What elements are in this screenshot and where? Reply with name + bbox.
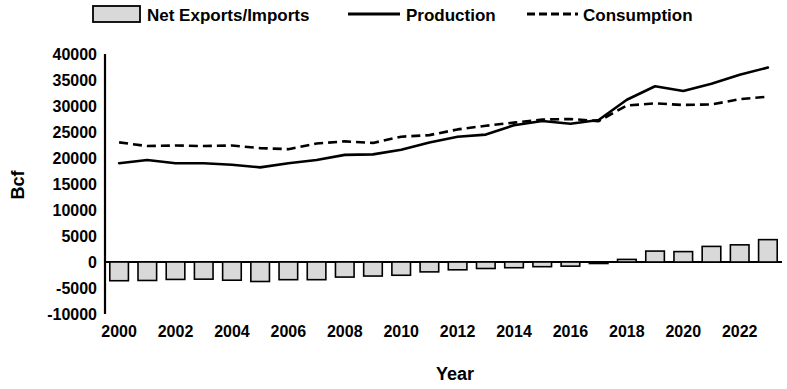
legend-label-net-exports-imports: Net Exports/Imports (147, 6, 309, 25)
bar (448, 262, 467, 270)
x-tick-label: 2020 (665, 323, 701, 340)
bar (307, 262, 326, 280)
x-tick-label: 2022 (722, 323, 758, 340)
x-tick-label: 2012 (440, 323, 476, 340)
x-axis-tick-labels: 2000200220042006200820102012201420162018… (101, 323, 757, 340)
y-tick-label: 25000 (53, 124, 98, 141)
bar (533, 262, 552, 267)
x-axis-title: Year (436, 364, 474, 384)
bar (166, 262, 185, 279)
energy-chart-figure: Net Exports/Imports Production Consumpti… (0, 0, 787, 389)
bar (646, 251, 665, 262)
legend-swatch-net-exports-imports (93, 6, 140, 22)
bar (194, 262, 213, 279)
y-tick-label: 10000 (53, 202, 98, 219)
bar (561, 262, 580, 266)
y-tick-label: 5000 (61, 228, 97, 245)
y-tick-label: 0 (88, 254, 97, 271)
bar (420, 262, 439, 272)
chart-legend: Net Exports/Imports Production Consumpti… (93, 6, 693, 25)
x-tick-label: 2004 (214, 323, 250, 340)
x-tick-label: 2008 (327, 323, 363, 340)
bar (110, 262, 129, 281)
x-tick-label: 2018 (609, 323, 645, 340)
x-tick-label: 2000 (101, 323, 137, 340)
bar (477, 262, 496, 269)
y-tick-label: 35000 (53, 72, 98, 89)
bar (392, 262, 411, 275)
bar (364, 262, 383, 276)
y-axis-tick-labels: -10000-500005000100001500020000250003000… (47, 46, 97, 323)
bar (589, 262, 608, 264)
y-tick-label: 40000 (53, 46, 98, 63)
bar (730, 245, 749, 262)
bar (702, 246, 721, 262)
bar (251, 262, 270, 282)
y-tick-label: 15000 (53, 176, 98, 193)
bar (138, 262, 157, 280)
y-tick-label: -5000 (56, 280, 97, 297)
bar (674, 252, 693, 262)
legend-label-production: Production (406, 6, 496, 25)
line-series-production (119, 68, 768, 168)
x-tick-label: 2014 (496, 323, 532, 340)
line-series-consumption (119, 97, 768, 150)
legend-label-consumption: Consumption (583, 6, 693, 25)
x-tick-label: 2010 (383, 323, 419, 340)
chart-container: Net Exports/Imports Production Consumpti… (0, 0, 787, 389)
y-tick-label: 30000 (53, 98, 98, 115)
bar (505, 262, 524, 268)
y-axis-title: Bcf (8, 169, 28, 199)
x-tick-label: 2016 (553, 323, 589, 340)
bar (223, 262, 242, 280)
x-tick-label: 2006 (271, 323, 307, 340)
bar-series-net-exports-imports (110, 240, 777, 282)
bar (335, 262, 354, 277)
bar (759, 240, 778, 262)
y-tick-label: -10000 (47, 306, 97, 323)
bar (618, 259, 637, 262)
bar (279, 262, 298, 280)
y-tick-label: 20000 (53, 150, 98, 167)
x-tick-label: 2002 (158, 323, 194, 340)
